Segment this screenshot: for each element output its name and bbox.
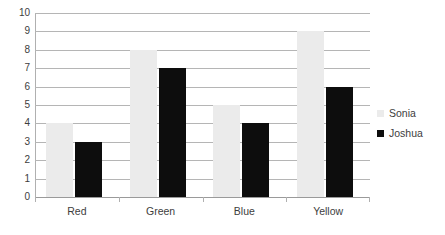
- x-axis-category-labels: RedGreenBlueYellow: [35, 205, 370, 221]
- bar-joshua-blue[interactable]: [242, 123, 269, 197]
- y-axis-tick-label: 0: [4, 192, 30, 202]
- y-axis-tick-label: 7: [4, 63, 30, 73]
- bar-group: [286, 13, 370, 197]
- y-axis-tick-label: 9: [4, 26, 30, 36]
- legend-swatch-joshua-icon: [377, 130, 384, 137]
- y-axis-tick-label: 2: [4, 155, 30, 165]
- bar-joshua-red[interactable]: [75, 142, 102, 197]
- bar-group: [119, 13, 203, 197]
- bar-sonia-blue[interactable]: [213, 105, 240, 197]
- bars-layer: [35, 13, 370, 197]
- bar-joshua-yellow[interactable]: [326, 87, 353, 197]
- legend-label: Joshua: [389, 127, 423, 139]
- y-axis-tick-label: 8: [4, 45, 30, 55]
- y-axis-tick-label: 5: [4, 100, 30, 110]
- legend-item-joshua[interactable]: Joshua: [377, 123, 443, 143]
- bar-joshua-green[interactable]: [159, 68, 186, 197]
- x-axis-tick: [119, 197, 120, 202]
- bar-sonia-yellow[interactable]: [297, 31, 324, 197]
- y-axis-tick-label: 1: [4, 174, 30, 184]
- x-axis-label-blue: Blue: [203, 205, 287, 218]
- y-axis-tick-label: 4: [4, 118, 30, 128]
- x-axis-tick: [369, 197, 370, 202]
- x-axis-label-red: Red: [35, 205, 119, 218]
- x-axis-tick: [286, 197, 287, 202]
- bar-group: [203, 13, 287, 197]
- x-axis-tick: [203, 197, 204, 202]
- x-axis-tick: [35, 197, 36, 202]
- y-axis-tick-label: 6: [4, 82, 30, 92]
- chart-title: [0, 0, 370, 3]
- bar-group: [35, 13, 119, 197]
- y-axis-tick-labels: 012345678910: [0, 13, 30, 197]
- legend-item-sonia[interactable]: Sonia: [377, 103, 443, 123]
- y-axis-tick-label: 10: [4, 8, 30, 18]
- bar-sonia-green[interactable]: [130, 50, 157, 197]
- bar-chart: 012345678910 RedGreenBlueYellow SoniaJos…: [0, 0, 445, 235]
- y-axis-tick-label: 3: [4, 137, 30, 147]
- chart-legend: SoniaJoshua: [377, 103, 443, 143]
- x-axis-tick-marks: [35, 197, 370, 203]
- plot-area: [35, 13, 370, 197]
- x-axis-label-yellow: Yellow: [286, 205, 370, 218]
- bar-sonia-red[interactable]: [46, 123, 73, 197]
- legend-label: Sonia: [389, 107, 416, 119]
- legend-swatch-sonia-icon: [377, 110, 384, 117]
- x-axis-label-green: Green: [119, 205, 203, 218]
